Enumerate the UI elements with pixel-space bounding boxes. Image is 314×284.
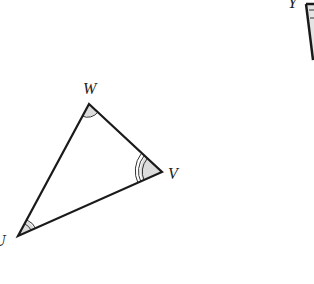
partial-triangle-y — [306, 4, 314, 60]
diagram-canvas: W V U Y — [0, 0, 314, 284]
label-v: V — [168, 165, 180, 182]
label-u: U — [0, 232, 7, 249]
label-w: W — [83, 80, 98, 97]
label-y: Y — [288, 0, 299, 11]
